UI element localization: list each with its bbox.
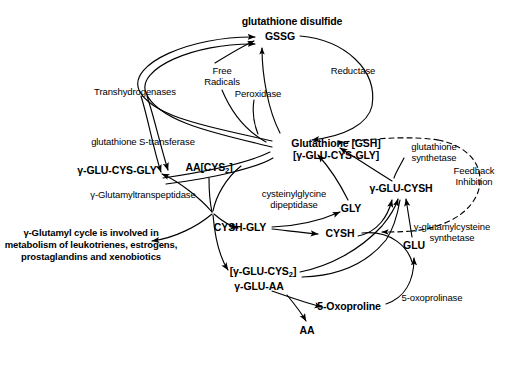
label-feedback-inhibition: Feedback Inhibition bbox=[454, 165, 495, 187]
label-glu-aa: γ-GLU-AA bbox=[234, 281, 283, 293]
aa-cys2-suffix: ] bbox=[229, 161, 232, 173]
glu-cys2-suffix: ] bbox=[293, 265, 296, 277]
arrow-reductase-gssg-to-gsh bbox=[300, 36, 373, 140]
glutamylcysteine-synthetase-line-2: synthetase bbox=[414, 232, 490, 243]
line-aa-cys2-to-junction bbox=[209, 178, 212, 212]
cysteinylglycine-line-2: dipeptidase bbox=[262, 199, 326, 210]
label-glutathione-synthetase: glutathione synthetase bbox=[411, 141, 456, 163]
free-radicals-line-1: Free bbox=[204, 65, 240, 76]
label-free-radicals: Free Radicals bbox=[204, 65, 240, 87]
arrow-cysh-gly-to-gly bbox=[272, 212, 340, 227]
label-glu-cys2: [γ-GLU-CYS2] bbox=[230, 266, 297, 279]
label-transhydrogenases: Transhydrogenases bbox=[94, 87, 176, 98]
label-gly: GLY bbox=[341, 203, 361, 215]
label-glutathione-disulfide: glutathione disulfide bbox=[242, 16, 343, 28]
label-5-oxoproline: 5-Oxoproline bbox=[317, 301, 381, 313]
arrow-cysh-gly-to-cysh bbox=[272, 229, 318, 234]
gsh-line-1: Glutathione [GSH] bbox=[291, 137, 380, 149]
label-aa: AA bbox=[300, 325, 315, 337]
feedback-line-2: Inhibition bbox=[454, 176, 495, 187]
gsh-line-2: [γ-GLU-CYS-GLY] bbox=[291, 149, 380, 161]
label-cysh-gly: CYSH-GLY bbox=[214, 222, 267, 234]
annotation-gamma-glutamyl-cycle: γ-Glutamyl cycle is involved in metaboli… bbox=[4, 227, 179, 263]
label-5-oxoprolinase: 5-oxoprolinase bbox=[402, 293, 463, 304]
glutamylcysteine-synthetase-line-1: γ-glutamylcysteine bbox=[414, 221, 490, 232]
dashed-feedback-to-glu-cysh-step bbox=[382, 231, 412, 232]
cysteinylglycine-line-1: cysteinylglycine bbox=[262, 188, 326, 199]
line-glutathione-synthetase-leader bbox=[394, 158, 404, 178]
feedback-line-1: Feedback bbox=[454, 165, 495, 176]
arrow-cysh-to-glu-cysh bbox=[358, 200, 392, 236]
label-gssg: GSSG bbox=[265, 31, 295, 43]
label-glu-cysh: γ-GLU-CYSH bbox=[369, 183, 432, 195]
label-peroxidase: Peroxidase bbox=[235, 89, 282, 100]
label-glutathione-gsh: Glutathione [GSH] [γ-GLU-CYS-GLY] bbox=[291, 137, 380, 162]
label-glutathione-s-transferase: glutathione S-transferase bbox=[91, 137, 195, 148]
label-glutamyltranspeptidase: γ-Glutamyltranspeptidase bbox=[90, 190, 195, 201]
label-cysteinylglycine-dipeptidase: cysteinylglycine dipeptidase bbox=[262, 188, 326, 210]
label-glu-cys-gly: γ-GLU-CYS-GLY bbox=[77, 165, 156, 177]
glu-cys2-prefix: [γ-GLU-CYS bbox=[230, 265, 289, 277]
arrow-glu-aa-to-oxoproline bbox=[272, 291, 322, 307]
label-glutamylcysteine-synthetase: γ-glutamylcysteine synthetase bbox=[414, 221, 490, 243]
line-peroxidase-leader bbox=[253, 100, 258, 134]
label-reductase: Reductase bbox=[331, 66, 376, 77]
free-radicals-line-2: Radicals bbox=[204, 76, 240, 87]
pathway-arrows-layer bbox=[0, 0, 516, 366]
glutathione-synthetase-line-1: glutathione bbox=[411, 141, 456, 152]
glutathione-synthetase-line-2: synthetase bbox=[411, 152, 456, 163]
label-aa-cys2: AA[CYS2] bbox=[185, 162, 232, 175]
glutathione-pathway-diagram: glutathione disulfide GSSG Transhydrogen… bbox=[0, 0, 516, 366]
aa-cys2-prefix: AA[CYS bbox=[185, 161, 225, 173]
label-cysh: CYSH bbox=[326, 228, 355, 240]
